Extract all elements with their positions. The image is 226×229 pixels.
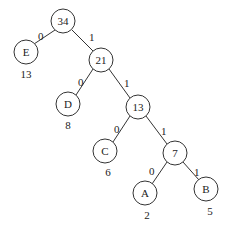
node-label: 7 [172,147,178,159]
node-label: B [202,183,209,195]
edge-label: 1 [194,166,200,178]
node-label: A [141,187,149,199]
node-D: D 8 [56,92,80,131]
node-weight: 2 [144,209,150,221]
node-C: C 6 [93,139,117,178]
node-label: E [23,46,30,58]
edge-label: 0 [114,123,120,135]
node-13: 13 [126,95,150,119]
node-34: 34 [51,9,75,33]
edge-label: 0 [38,30,44,42]
edge-label: 1 [89,31,95,43]
edge-label: 1 [161,125,167,137]
nodes: 34 E 13 21 D 8 13 C 6 7 [14,9,218,221]
node-E: E 13 [14,40,38,80]
edge-label: 0 [78,76,84,88]
node-21: 21 [89,48,113,72]
node-weight: 6 [105,166,111,178]
node-label: C [101,145,108,157]
node-A: A 2 [133,181,157,221]
node-weight: 5 [207,205,213,217]
node-label: 13 [133,101,145,113]
node-7: 7 [163,141,187,165]
node-weight: 13 [21,68,33,80]
node-weight: 8 [65,119,71,131]
node-label: 21 [96,54,107,66]
huffman-tree-diagram: 0 1 0 1 0 1 0 1 34 E 13 21 D 8 13 [0,0,226,229]
node-label: D [64,98,72,110]
node-label: 34 [58,15,70,27]
edge-label: 0 [149,165,155,177]
edge-label: 1 [124,77,130,89]
node-B: B 5 [194,177,218,217]
